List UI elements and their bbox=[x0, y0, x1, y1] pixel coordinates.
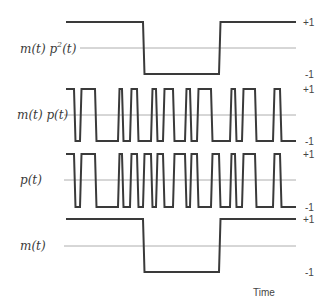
waveform-m bbox=[66, 219, 296, 272]
spread-spectrum-diagram: m(t) p2(t) +1 -1 m(t) p(t) +1 -1 p(t) +1… bbox=[0, 0, 330, 302]
level-high-label: +1 bbox=[303, 84, 315, 95]
waveform-p bbox=[66, 154, 296, 207]
level-low-label: -1 bbox=[305, 136, 314, 147]
level-low-label: -1 bbox=[305, 202, 314, 213]
signal-label-m-p: m(t) p(t) bbox=[17, 108, 69, 122]
level-high-label: +1 bbox=[303, 214, 315, 225]
level-low-label: -1 bbox=[305, 267, 314, 278]
level-low-label: -1 bbox=[305, 69, 314, 80]
signal-label-m-p-squared: m(t) p2(t) bbox=[20, 40, 77, 56]
panel-m: m(t) +1 -1 bbox=[20, 214, 315, 278]
panel-p: p(t) +1 -1 bbox=[20, 149, 315, 213]
panel-m-p: m(t) p(t) +1 -1 bbox=[17, 84, 315, 147]
time-axis-label: Time bbox=[253, 287, 275, 298]
level-high-label: +1 bbox=[303, 17, 315, 28]
panel-m-p-squared: m(t) p2(t) +1 -1 bbox=[20, 17, 315, 80]
signal-label-p: p(t) bbox=[20, 173, 42, 187]
signal-label-m: m(t) bbox=[20, 239, 46, 253]
level-high-label: +1 bbox=[303, 149, 315, 160]
